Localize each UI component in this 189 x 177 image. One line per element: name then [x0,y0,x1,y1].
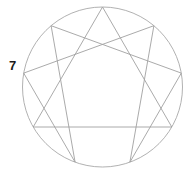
point-label-7: 7 [9,59,16,72]
enneagram-svg [0,0,189,177]
enneagram-hexad [24,26,182,163]
enneagram-outer-circle [23,7,183,167]
enneagram-diagram: 7 [0,0,189,177]
enneagram-triangle [33,7,172,127]
